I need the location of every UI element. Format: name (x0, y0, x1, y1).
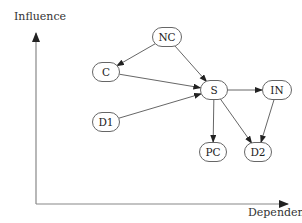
node-in: IN (262, 80, 292, 100)
node-d1: D1 (92, 112, 120, 132)
edge-nc-to-s (175, 46, 207, 82)
node-nc: NC (152, 27, 182, 47)
node-c: C (92, 62, 120, 82)
axes-and-edges (0, 0, 302, 223)
y-axis-label: Influence (14, 10, 66, 23)
edge-nc-to-c (117, 44, 156, 66)
edges (117, 44, 274, 144)
x-axis-label: Dependence (248, 206, 302, 219)
edge-s-to-pc (213, 100, 214, 142)
node-d2: D2 (244, 142, 272, 162)
node-s: S (200, 80, 228, 100)
edge-in-to-d2 (261, 100, 274, 142)
influence-dependence-diagram: Influence Dependence NCCSIND1PCD2 (0, 0, 302, 223)
node-pc: PC (199, 142, 227, 162)
edge-s-to-d2 (220, 99, 251, 143)
edge-c-to-s (120, 74, 201, 87)
edge-d1-to-s (119, 94, 201, 118)
